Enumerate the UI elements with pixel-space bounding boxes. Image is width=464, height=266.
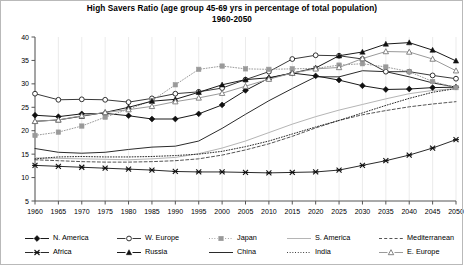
legend-item-africa[interactable]: Africa: [24, 247, 116, 258]
x-axis-tick-label: 2030: [355, 208, 371, 215]
x-axis-tick-label: 2010: [261, 208, 277, 215]
data-point-marker: [173, 83, 177, 87]
legend-item-s-america[interactable]: S. America: [286, 233, 378, 244]
x-axis-tick-label: 2050: [448, 208, 464, 215]
x-axis-tick-label: 2000: [214, 208, 230, 215]
data-point-marker: [430, 79, 434, 83]
data-point-marker: [79, 97, 84, 102]
y-axis-tick-label: 15: [21, 151, 29, 158]
x-axis-tick-label: 2005: [238, 208, 254, 215]
legend-item-n-america[interactable]: N. America: [24, 233, 116, 244]
x-axis-tick-label: 2015: [284, 208, 300, 215]
data-point-marker: [313, 53, 318, 58]
data-point-marker: [220, 64, 224, 68]
data-point-marker: [103, 115, 107, 119]
y-axis-tick-label: 40: [21, 34, 29, 41]
data-point-marker: [336, 77, 342, 83]
data-point-marker: [267, 67, 271, 71]
legend-item-china[interactable]: China: [208, 247, 286, 258]
chart-title-line2: 1960-2050: [0, 14, 464, 25]
plot-svg: 5101520253035401960196519701975198019851…: [0, 27, 464, 227]
data-point-marker: [384, 65, 388, 69]
x-axis-tick-label: 1965: [51, 208, 67, 215]
data-point-marker: [406, 86, 412, 92]
y-axis-tick-label: 35: [21, 57, 29, 64]
data-point-marker: [33, 91, 38, 96]
chart-container: High Savers Ratio (age group 45-69 yrs i…: [0, 0, 464, 266]
legend-item-japan[interactable]: Japan: [208, 233, 286, 244]
x-axis-tick-label: 1960: [27, 208, 43, 215]
data-point-marker: [453, 58, 458, 63]
legend-label: Russia: [145, 248, 167, 255]
legend-marker-filled-square-icon: [208, 233, 234, 244]
data-point-marker: [407, 69, 411, 73]
x-axis-tick-label: 1975: [97, 208, 113, 215]
data-point-marker: [172, 116, 178, 122]
legend-marker-open-circle-icon: [116, 233, 142, 244]
legend-item-mediterranean[interactable]: Mediterranean: [378, 233, 464, 244]
chart-legend: N. AmericaW. EuropeJapanS. AmericaMedite…: [24, 231, 448, 259]
data-point-marker: [173, 91, 178, 96]
data-point-marker: [149, 116, 155, 122]
legend-marker-none-icon: [286, 247, 312, 258]
legend-label: Mediterranean: [407, 234, 454, 241]
data-point-marker: [32, 112, 38, 118]
legend-label: Africa: [53, 248, 72, 255]
chart-title-line1: High Savers Ratio (age group 45-69 yrs i…: [0, 3, 464, 14]
data-point-marker: [360, 83, 366, 89]
data-point-marker: [430, 85, 436, 91]
data-point-marker: [56, 97, 61, 102]
legend-label: N. America: [53, 234, 89, 241]
x-axis-tick-label: 1995: [191, 208, 207, 215]
y-axis-tick-label: 25: [21, 104, 29, 111]
data-point-marker: [103, 97, 108, 102]
x-axis-tick-label: 1990: [168, 208, 184, 215]
x-axis-tick-label: 1985: [144, 208, 160, 215]
x-axis-tick-label: 2040: [401, 208, 417, 215]
data-point-marker: [197, 67, 201, 71]
data-point-marker: [243, 67, 247, 71]
legend-marker-none-icon: [208, 247, 234, 258]
data-point-marker: [219, 236, 223, 240]
legend-label: E. Europe: [407, 248, 439, 255]
legend-label: China: [237, 248, 256, 255]
data-point-marker: [196, 111, 202, 117]
legend-label: S. America: [315, 234, 350, 241]
y-axis-tick-label: 10: [21, 174, 29, 181]
data-point-marker: [454, 85, 458, 89]
legend-marker-none-icon: [286, 233, 312, 244]
x-axis-tick-label: 2025: [331, 208, 347, 215]
legend-marker-filled-diamond-icon: [24, 233, 50, 244]
data-point-marker: [127, 236, 132, 241]
plot-area: 5101520253035401960196519701975198019851…: [0, 27, 464, 227]
x-axis-tick-label: 1970: [74, 208, 90, 215]
legend-marker-cross-x-icon: [24, 247, 50, 258]
y-axis-tick-label: 30: [21, 80, 29, 87]
data-point-marker: [126, 113, 132, 119]
legend-label: Japan: [237, 234, 257, 241]
data-point-marker: [33, 133, 37, 137]
legend-label: India: [315, 248, 331, 255]
legend-item-russia[interactable]: Russia: [116, 247, 208, 258]
legend-label: W. Europe: [145, 234, 179, 241]
legend-marker-open-triangle-icon: [378, 247, 404, 258]
legend-item-e-europe[interactable]: E. Europe: [378, 247, 464, 258]
legend-marker-none-icon: [378, 233, 404, 244]
y-axis-tick-label: 20: [21, 127, 29, 134]
legend-marker-filled-triangle-icon: [116, 247, 142, 258]
x-axis-tick-label: 2020: [308, 208, 324, 215]
x-axis-tick-label: 2035: [378, 208, 394, 215]
data-point-marker: [290, 57, 295, 62]
data-point-marker: [80, 124, 84, 128]
data-point-marker: [430, 73, 435, 78]
data-point-marker: [454, 76, 459, 81]
chart-title: High Savers Ratio (age group 45-69 yrs i…: [0, 3, 464, 25]
legend-item-india[interactable]: India: [286, 247, 378, 258]
data-point-marker: [453, 68, 458, 73]
data-point-marker: [383, 69, 388, 74]
x-axis-tick-label: 1980: [121, 208, 137, 215]
data-point-marker: [126, 100, 131, 105]
legend-item-w-europe[interactable]: W. Europe: [116, 233, 208, 244]
y-axis-tick-label: 5: [25, 198, 29, 205]
data-point-marker: [219, 102, 225, 108]
